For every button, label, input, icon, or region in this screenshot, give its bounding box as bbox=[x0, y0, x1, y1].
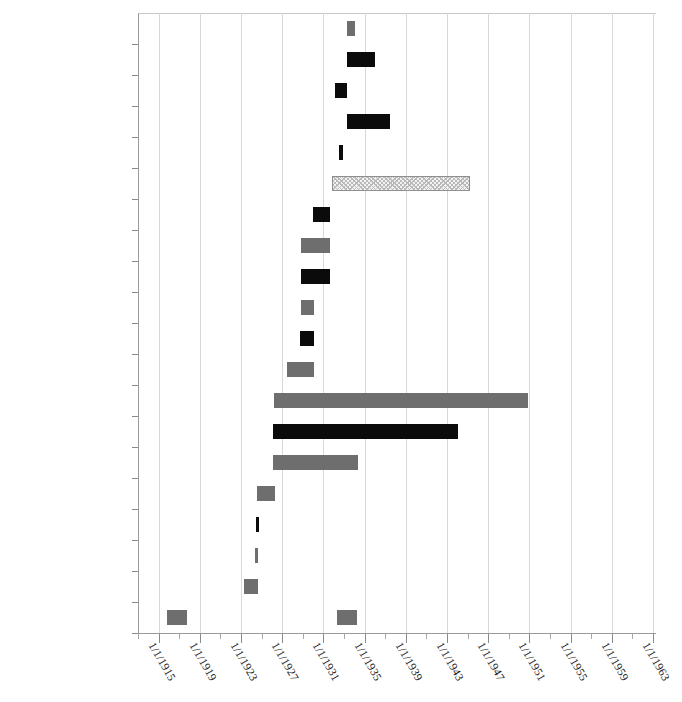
x-axis-label-1931: 1/1/1931 bbox=[311, 640, 343, 683]
x-axis-label-1939: 1/1/1939 bbox=[393, 640, 425, 683]
x-axis-label-1959: 1/1/1959 bbox=[599, 640, 631, 683]
x-axis-label-1919: 1/1/1919 bbox=[187, 640, 219, 683]
x-axis-label-1955: 1/1/1955 bbox=[558, 640, 590, 683]
gantt-chart: Marian ClarkeIsabella GreenwayKathryn Mc… bbox=[0, 0, 682, 702]
x-axis-label-1915: 1/1/1915 bbox=[146, 640, 178, 683]
x-axis-label-1923: 1/1/1923 bbox=[229, 640, 261, 683]
x-axis-label-1951: 1/1/1951 bbox=[517, 640, 549, 683]
x-axis-label-1935: 1/1/1935 bbox=[352, 640, 384, 683]
x-axis-labels: 1/1/19151/1/19191/1/19231/1/19271/1/1931… bbox=[0, 0, 682, 702]
x-axis-label-1947: 1/1/1947 bbox=[476, 640, 508, 683]
x-axis-label-1963: 1/1/1963 bbox=[641, 640, 673, 683]
x-axis-label-1927: 1/1/1927 bbox=[270, 640, 302, 683]
x-axis-label-1943: 1/1/1943 bbox=[435, 640, 467, 683]
